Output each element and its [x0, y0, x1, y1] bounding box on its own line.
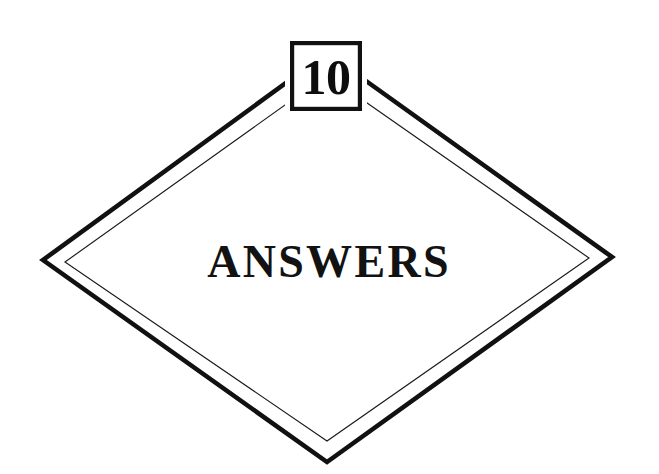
chapter-divider-page: 10 ANSWERS	[0, 0, 659, 474]
chapter-divider-graphic: 10 ANSWERS	[0, 0, 659, 474]
